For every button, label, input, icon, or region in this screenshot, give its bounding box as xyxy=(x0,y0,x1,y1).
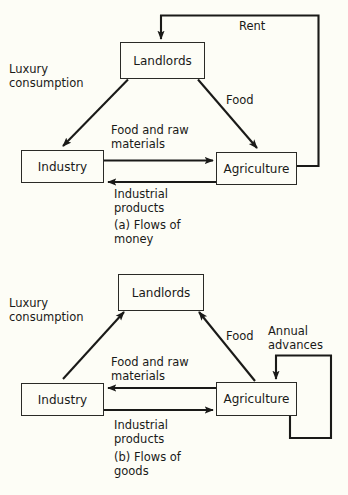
edge-label-luxury-consumption-a-line2: consumption xyxy=(9,77,83,90)
edge-label-food-and-raw-a-line1: Food and raw xyxy=(111,124,189,137)
edge-label-annual-advances-b-line1: Annual xyxy=(268,325,308,338)
caption-a-line2: money xyxy=(114,233,153,246)
node-agriculture-b[interactable]: Agriculture xyxy=(216,382,297,416)
node-label-industry-a: Industry xyxy=(38,160,87,174)
caption-a-line1: (a) Flows of xyxy=(114,219,181,232)
edge-label-luxury-consumption-a-line1: Luxury xyxy=(9,63,48,76)
caption-b-line2: goods xyxy=(114,465,149,478)
edge-label-rent-a: Rent xyxy=(239,20,265,33)
caption-b-line1: (b) Flows of xyxy=(114,451,181,464)
node-landlords-a[interactable]: Landlords xyxy=(120,42,205,79)
edge-label-industrial-products-b-line1: Industrial xyxy=(114,419,168,432)
edge-label-industrial-products-a-line2: products xyxy=(114,202,164,215)
node-label-agriculture-b: Agriculture xyxy=(224,392,290,406)
node-industry-b[interactable]: Industry xyxy=(21,383,104,416)
edge-label-food-and-raw-b-line2: materials xyxy=(111,370,165,383)
node-landlords-b[interactable]: Landlords xyxy=(118,274,204,311)
edge-label-food-a: Food xyxy=(226,94,254,107)
node-label-landlords-a: Landlords xyxy=(133,54,192,68)
edge-label-industrial-products-b-line2: products xyxy=(114,433,164,446)
node-label-agriculture-a: Agriculture xyxy=(224,162,290,176)
edge-label-food-and-raw-b-line1: Food and raw xyxy=(111,356,189,369)
node-label-landlords-b: Landlords xyxy=(132,286,191,300)
edge-food-b xyxy=(199,312,255,381)
edge-food-a xyxy=(198,80,257,149)
figure-canvas: Landlords Industry Agriculture Rent Luxu… xyxy=(0,0,348,495)
node-label-industry-b: Industry xyxy=(38,393,87,407)
edge-label-industrial-products-a-line1: Industrial xyxy=(114,188,168,201)
node-agriculture-a[interactable]: Agriculture xyxy=(216,152,297,185)
edge-label-luxury-consumption-b-line2: consumption xyxy=(9,311,83,324)
edge-rent-a xyxy=(161,16,319,167)
edge-label-food-and-raw-a-line2: materials xyxy=(111,138,165,151)
edge-label-annual-advances-b-line2: advances xyxy=(268,339,323,352)
edge-label-luxury-consumption-b-line1: Luxury xyxy=(9,297,48,310)
node-industry-a[interactable]: Industry xyxy=(21,150,104,183)
edge-label-food-b: Food xyxy=(226,330,254,343)
